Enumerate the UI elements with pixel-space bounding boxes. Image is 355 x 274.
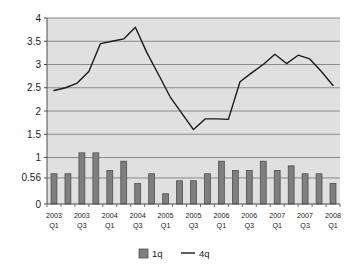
chart-container: 00.5611.522.533.54 2003Q12003Q32004Q1200… xyxy=(0,0,355,274)
x-tick-label-year: 2005 xyxy=(158,211,174,220)
bar xyxy=(51,174,57,204)
bar xyxy=(246,171,252,204)
y-tick-label: 2.5 xyxy=(27,82,41,93)
x-tick-label-year: 2005 xyxy=(186,211,202,220)
bar xyxy=(79,153,85,204)
bar xyxy=(330,184,336,204)
bar xyxy=(149,174,155,204)
legend-swatch-bar xyxy=(139,249,148,258)
legend-label: 4q xyxy=(199,248,210,259)
y-tick-label: 3.5 xyxy=(27,36,41,47)
y-tick-label: 2 xyxy=(35,106,41,117)
quarterly-chart: 00.5611.522.533.54 2003Q12003Q32004Q1200… xyxy=(0,0,355,274)
bar xyxy=(316,174,322,204)
bar xyxy=(163,194,169,204)
x-tick-label-quarter: Q1 xyxy=(217,221,227,230)
y-tick-label: 1.5 xyxy=(27,129,41,140)
x-tick-label-quarter: Q3 xyxy=(133,221,143,230)
x-tick-label-quarter: Q3 xyxy=(189,221,199,230)
x-tick-label-year: 2008 xyxy=(325,211,341,220)
bar xyxy=(274,171,280,204)
bar xyxy=(65,174,71,204)
x-tick-label-quarter: Q1 xyxy=(328,221,338,230)
legend-label: 1q xyxy=(152,248,163,259)
y-tick-label: 1 xyxy=(35,152,41,163)
x-tick-label-year: 2004 xyxy=(102,211,118,220)
bar xyxy=(205,174,211,204)
x-tick-label-year: 2006 xyxy=(241,211,257,220)
x-tick-label-year: 2004 xyxy=(130,211,146,220)
bar xyxy=(107,171,113,204)
x-tick-label-year: 2003 xyxy=(46,211,62,220)
bar xyxy=(177,181,183,204)
bar xyxy=(288,166,294,204)
x-tick-label-quarter: Q3 xyxy=(77,221,87,230)
x-tick-label-year: 2003 xyxy=(74,211,90,220)
x-tick-label-quarter: Q1 xyxy=(161,221,171,230)
bar xyxy=(302,174,308,204)
bar xyxy=(218,161,224,204)
x-tick-label-quarter: Q1 xyxy=(272,221,282,230)
bar xyxy=(135,184,141,204)
x-tick-label-quarter: Q3 xyxy=(245,221,255,230)
y-tick-label: 0.56 xyxy=(22,172,42,183)
bar xyxy=(121,161,127,204)
bar xyxy=(93,153,99,204)
x-tick-label-quarter: Q3 xyxy=(300,221,310,230)
y-tick-label: 4 xyxy=(35,13,41,24)
x-tick-label-year: 2007 xyxy=(269,211,285,220)
bar xyxy=(260,161,266,204)
x-tick-label-quarter: Q1 xyxy=(105,221,115,230)
bar xyxy=(191,181,197,204)
bar xyxy=(232,171,238,204)
y-tick-label: 0 xyxy=(35,199,41,210)
x-tick-label-quarter: Q1 xyxy=(49,221,59,230)
y-tick-label: 3 xyxy=(35,59,41,70)
x-tick-label-year: 2007 xyxy=(297,211,313,220)
x-tick-label-year: 2006 xyxy=(213,211,229,220)
